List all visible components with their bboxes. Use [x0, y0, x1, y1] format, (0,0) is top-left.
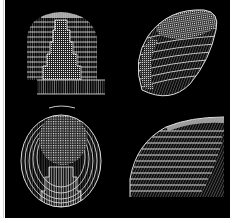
panel-top-view	[5, 109, 117, 218]
panel-front-view	[5, 0, 117, 109]
figure-grid	[5, 0, 230, 218]
egg-oblique-mesh	[118, 0, 230, 109]
panel-oblique-view	[118, 0, 230, 109]
panel-side-view	[118, 109, 230, 218]
dome-front-mesh	[5, 0, 117, 109]
left-edge-line	[3, 0, 4, 218]
quarter-dome-side-mesh	[118, 109, 230, 218]
oval-top-mesh	[5, 109, 117, 218]
